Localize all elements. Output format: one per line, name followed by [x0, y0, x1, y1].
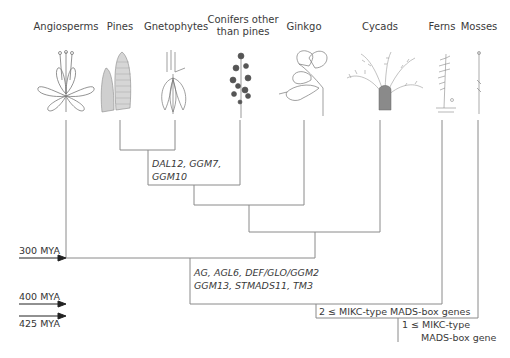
- gene-annotation-line1: DAL12, GGM7,: [152, 157, 221, 170]
- branch-pines-gnetophytes: [120, 120, 175, 150]
- gene-annotation-gnetophytes-pines: DAL12, GGM7, GGM10: [152, 157, 221, 183]
- branch-vascular-mosses: [316, 120, 478, 318]
- gene-annotation-line2: GGM13, STMADS11, TM3: [194, 279, 319, 292]
- branch-ginkgo-cycads: [249, 120, 380, 232]
- note-land-plants-mikc-line1: 1 ≤ MIKC-type: [402, 318, 470, 331]
- gene-annotation-line2: GGM10: [152, 170, 221, 183]
- timescale-300-mya: 300 MYA: [19, 245, 60, 256]
- gene-annotation-seed-plants: AG, AGL6, DEF/GLO/GGM2 GGM13, STMADS11, …: [194, 266, 319, 292]
- gene-annotation-line1: AG, AGL6, DEF/GLO/GGM2: [194, 266, 319, 279]
- branch-seed-plants: [66, 232, 315, 258]
- note-land-plants-mikc-line2: MADS-box gene: [421, 331, 496, 344]
- timescale-425-mya: 425 MYA: [19, 318, 60, 329]
- note-vascular-mikc: 2 ≤ MIKC-type MADS-box genes: [319, 305, 470, 318]
- timescale-400-mya: 400 MYA: [19, 291, 60, 302]
